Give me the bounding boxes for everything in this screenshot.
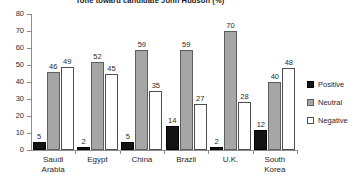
y-tick-label: 30 <box>16 94 24 103</box>
legend-item-negative[interactable]: Negative <box>307 116 348 125</box>
bar-positive[interactable] <box>121 142 134 151</box>
y-tick-label: 20 <box>16 111 24 120</box>
bar-group: 145927 <box>164 14 208 150</box>
bar-value-label: 59 <box>175 41 197 49</box>
bar-value-label: 70 <box>219 22 241 30</box>
bar-positive[interactable] <box>77 147 90 150</box>
bars: 124048 <box>253 14 297 150</box>
bar-value-label: 48 <box>278 59 300 67</box>
legend-item-neutral[interactable]: Neutral <box>307 98 348 107</box>
bar-neutral[interactable] <box>47 72 60 150</box>
x-axis-label-line: South <box>247 155 303 165</box>
bar-neutral[interactable] <box>224 31 237 150</box>
y-tick-label: 70 <box>16 26 24 35</box>
bar-group: 54649 <box>31 14 75 150</box>
bar-chart-figure: Tone toward candidate John Hudson (%) 01… <box>0 0 361 188</box>
x-group-tick <box>297 150 298 154</box>
bar-negative[interactable] <box>282 68 295 150</box>
bar-positive[interactable] <box>33 142 46 151</box>
bar-group: 25245 <box>75 14 119 150</box>
y-tick-label: 40 <box>16 77 24 86</box>
bar-positive[interactable] <box>166 126 179 150</box>
y-tick-label: 50 <box>16 60 24 69</box>
bars: 25245 <box>75 14 119 150</box>
bars: 54649 <box>31 14 75 150</box>
bar-positive[interactable] <box>210 147 223 150</box>
positive-swatch-icon <box>307 81 314 88</box>
legend-item-positive[interactable]: Positive <box>307 80 348 89</box>
y-tick-label: 60 <box>16 43 24 52</box>
x-group-tick <box>75 150 76 154</box>
bar-neutral[interactable] <box>135 50 148 150</box>
bars: 27028 <box>208 14 252 150</box>
bar-neutral[interactable] <box>91 62 104 150</box>
bar-value-label: 52 <box>86 53 108 61</box>
y-tick-label: 0 <box>20 145 24 154</box>
legend-label: Positive <box>318 80 344 89</box>
legend-label: Negative <box>318 116 348 125</box>
x-axis-label-line: Arabia <box>25 165 81 175</box>
x-group-tick <box>253 150 254 154</box>
y-tick-mark <box>27 150 31 151</box>
bars: 145927 <box>164 14 208 150</box>
y-tick-label: 80 <box>16 9 24 18</box>
legend-label: Neutral <box>318 98 342 107</box>
neutral-swatch-icon <box>307 99 314 106</box>
chart-legend: PositiveNeutralNegative <box>307 80 348 134</box>
bar-positive[interactable] <box>254 130 267 150</box>
chart-title: Tone toward candidate John Hudson (%) <box>0 0 300 5</box>
bar-group: 55935 <box>120 14 164 150</box>
x-group-tick <box>208 150 209 154</box>
x-axis-label-line: Korea <box>247 165 303 175</box>
bar-group: 27028 <box>208 14 252 150</box>
bar-group: 124048 <box>253 14 297 150</box>
x-axis-label-south-korea: SouthKorea <box>247 155 303 175</box>
bar-value-label: 59 <box>131 41 153 49</box>
bar-neutral[interactable] <box>268 82 281 150</box>
negative-swatch-icon <box>307 117 314 124</box>
y-tick-label: 10 <box>16 128 24 137</box>
bars: 55935 <box>120 14 164 150</box>
x-group-tick <box>164 150 165 154</box>
x-group-tick <box>120 150 121 154</box>
